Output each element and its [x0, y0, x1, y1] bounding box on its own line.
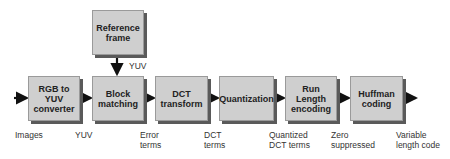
reference-line1: Reference — [96, 23, 140, 33]
flow-label-images: Images — [15, 130, 43, 140]
flow-label-variable-length-code: Variablelength code — [396, 130, 440, 150]
stage-block-matching: Blockmatching — [92, 76, 144, 121]
flow-label-dct-terms: DCTterms — [204, 130, 225, 150]
flow-label-error-terms: Errorterms — [140, 130, 161, 150]
flow-label-zero-suppressed: Zerosuppressed — [331, 130, 375, 150]
reference-yuv-label: YUV — [129, 61, 146, 71]
reference-frame-box: Referenceframe — [92, 10, 144, 55]
flow-label-quantized-dct-terms: QuantizedDCT terms — [269, 130, 310, 150]
stage-run-length-encoding: RunLengthencoding — [285, 76, 337, 121]
stage-huffman-coding: Huffmancoding — [350, 76, 403, 121]
flow-label-yuv: YUV — [75, 130, 92, 140]
stage-dct-transform: DCTtransform — [155, 76, 208, 121]
reference-line2: frame — [106, 33, 131, 43]
stage-rgb-to-yuv: RGB toYUVconverter — [28, 76, 80, 121]
stage-quantization: Quantization — [219, 76, 274, 121]
